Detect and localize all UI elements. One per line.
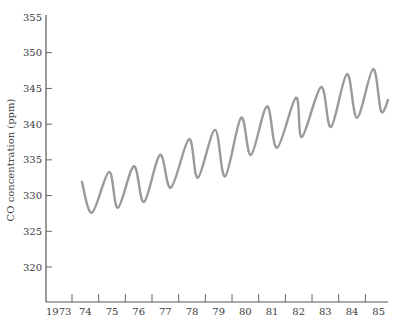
co-concentration-chart: 355350345340335330325320 197374757677787… [0, 0, 398, 324]
x-tick-label: 1973 [46, 306, 71, 317]
y-tick-label: 355 [23, 12, 42, 23]
x-tick-label: 83 [319, 306, 332, 317]
x-tick-label: 75 [106, 306, 119, 317]
x-tick-label: 78 [186, 306, 199, 317]
y-axis: 355350345340335330325320 [23, 12, 52, 303]
y-tick-label: 330 [23, 190, 42, 201]
series-line-co-concentration [82, 69, 388, 213]
y-axis-title: CO concentration (ppm) [5, 99, 16, 222]
x-tick-label: 84 [346, 306, 359, 317]
x-axis: 1973747576777879808182838485 [46, 294, 388, 317]
y-tick-label: 325 [23, 226, 42, 237]
x-tick-label: 82 [292, 306, 305, 317]
y-tick-label: 345 [23, 83, 42, 94]
y-tick-label: 340 [23, 119, 42, 130]
x-tick-label: 77 [159, 306, 172, 317]
x-tick-label: 74 [79, 306, 92, 317]
x-tick-label: 85 [372, 306, 385, 317]
x-tick-label: 76 [132, 306, 145, 317]
y-tick-label: 320 [23, 262, 42, 273]
y-tick-label: 335 [23, 154, 42, 165]
x-tick-label: 79 [212, 306, 225, 317]
x-tick-label: 81 [266, 306, 279, 317]
plot-area [82, 69, 388, 213]
x-tick-label: 80 [239, 306, 252, 317]
y-tick-label: 350 [23, 47, 42, 58]
